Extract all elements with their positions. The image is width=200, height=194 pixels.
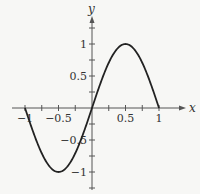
x-tick-label: −0.5 [45, 112, 72, 125]
x-axis-arrow-icon [179, 106, 186, 111]
y-tick-label: −1 [71, 166, 87, 179]
x-tick-label: 0.5 [117, 112, 135, 125]
y-tick-label: 1 [80, 38, 87, 51]
y-axis-label: y [87, 2, 95, 16]
x-tick-label: 1 [156, 112, 163, 125]
plot-area: −1−0.50.51−1−0.50.51 x y [0, 0, 200, 194]
axes [12, 16, 186, 190]
y-axis-arrow-icon [90, 16, 95, 23]
x-axis-label: x [189, 101, 196, 115]
y-tick-label: 0.5 [70, 70, 88, 83]
